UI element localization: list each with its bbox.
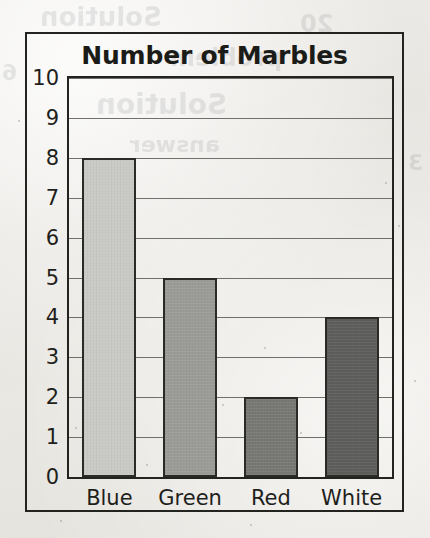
figure-frame: Number of Marbles 012345678910 BlueGreen… bbox=[25, 32, 404, 512]
gridline bbox=[69, 437, 392, 438]
x-axis-tick-label: Green bbox=[150, 483, 231, 513]
x-axis-tick-labels: BlueGreenRedWhite bbox=[67, 483, 394, 517]
gridline bbox=[69, 198, 392, 199]
y-axis-tick-label: 7 bbox=[46, 187, 59, 208]
y-axis-tick-label: 9 bbox=[46, 107, 59, 128]
bar-texture bbox=[84, 160, 134, 475]
chart-title: Number of Marbles bbox=[27, 39, 402, 73]
y-axis-tick-label: 0 bbox=[46, 467, 59, 488]
x-axis-tick-label: White bbox=[311, 483, 392, 513]
gridlines bbox=[69, 78, 392, 477]
gridline bbox=[69, 278, 392, 279]
gridline bbox=[69, 118, 392, 119]
gridline bbox=[69, 397, 392, 398]
y-axis-tick-labels: 012345678910 bbox=[27, 76, 63, 479]
gridline bbox=[69, 78, 392, 79]
plot-area bbox=[67, 76, 394, 479]
bar-texture bbox=[165, 280, 215, 476]
bar-texture bbox=[327, 319, 377, 475]
bar-texture bbox=[246, 399, 296, 475]
x-axis-tick-label: Red bbox=[231, 483, 312, 513]
y-axis-tick-label: 8 bbox=[46, 147, 59, 168]
y-axis-tick-label: 2 bbox=[46, 387, 59, 408]
y-axis-tick-label: 1 bbox=[46, 427, 59, 448]
gridline bbox=[69, 158, 392, 159]
bar bbox=[244, 397, 298, 477]
y-axis-tick-label: 5 bbox=[46, 267, 59, 288]
y-axis-tick-label: 3 bbox=[46, 347, 59, 368]
bar-series bbox=[69, 78, 392, 477]
y-axis-tick-label: 4 bbox=[46, 307, 59, 328]
gridline bbox=[69, 238, 392, 239]
bar bbox=[163, 278, 217, 478]
gridline bbox=[69, 317, 392, 318]
x-axis-tick-label: Blue bbox=[69, 483, 150, 513]
bar bbox=[82, 158, 136, 477]
y-axis-tick-label: 6 bbox=[46, 227, 59, 248]
y-axis-tick-label: 10 bbox=[32, 68, 59, 89]
bar bbox=[325, 317, 379, 477]
gridline bbox=[69, 357, 392, 358]
